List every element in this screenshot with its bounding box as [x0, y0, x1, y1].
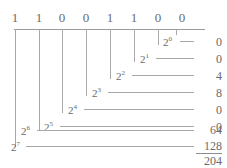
drop-line-bit-4: [86, 29, 87, 96]
total-value: 204: [196, 155, 222, 167]
power-label-6: 26: [21, 125, 30, 137]
product-value-0: 0: [196, 36, 222, 48]
binary-digit-7: 1: [8, 11, 22, 24]
connector-line-3: [108, 92, 194, 93]
binary-digit-0: 0: [175, 11, 189, 24]
drop-line-bit-6: [39, 29, 40, 130]
drop-line-bit-1: [158, 29, 159, 45]
connector-line-6: [37, 130, 194, 131]
drop-line-bit-2: [134, 29, 135, 62]
connector-line-2: [132, 75, 194, 76]
binary-digit-2: 1: [127, 11, 141, 24]
power-label-2: 22: [116, 70, 125, 82]
drop-line-bit-3: [110, 29, 111, 79]
binary-conversion-diagram: 1 1 0 0 1 1 0 0 20 0 21 0 22 4 23 8 24 0…: [0, 0, 227, 168]
connector-line-5: [60, 126, 194, 127]
drop-line-bit-7: [15, 29, 16, 147]
product-value-4: 0: [196, 104, 222, 116]
product-value-1: 0: [196, 53, 222, 65]
connector-line-7: [26, 146, 194, 147]
binary-digit-3: 1: [103, 11, 117, 24]
power-label-4: 24: [68, 104, 77, 116]
power-label-7: 27: [11, 141, 20, 153]
binary-digit-4: 0: [79, 11, 93, 24]
product-value-7: 128: [196, 140, 222, 152]
binary-digit-6: 1: [32, 11, 46, 24]
product-value-3: 8: [196, 87, 222, 99]
binary-digit-5: 0: [55, 11, 69, 24]
power-label-3: 23: [92, 87, 101, 99]
binary-digit-1: 0: [151, 11, 165, 24]
power-label-0: 20: [163, 36, 172, 48]
drop-line-bit-5: [62, 29, 63, 113]
connector-line-1: [156, 58, 194, 59]
connector-line-4: [84, 109, 194, 110]
power-label-1: 21: [140, 53, 149, 65]
product-value-6: 64: [196, 124, 222, 136]
drop-line-bit-0: [176, 29, 177, 35]
connector-line-0: [180, 41, 194, 42]
product-value-2: 4: [196, 70, 222, 82]
